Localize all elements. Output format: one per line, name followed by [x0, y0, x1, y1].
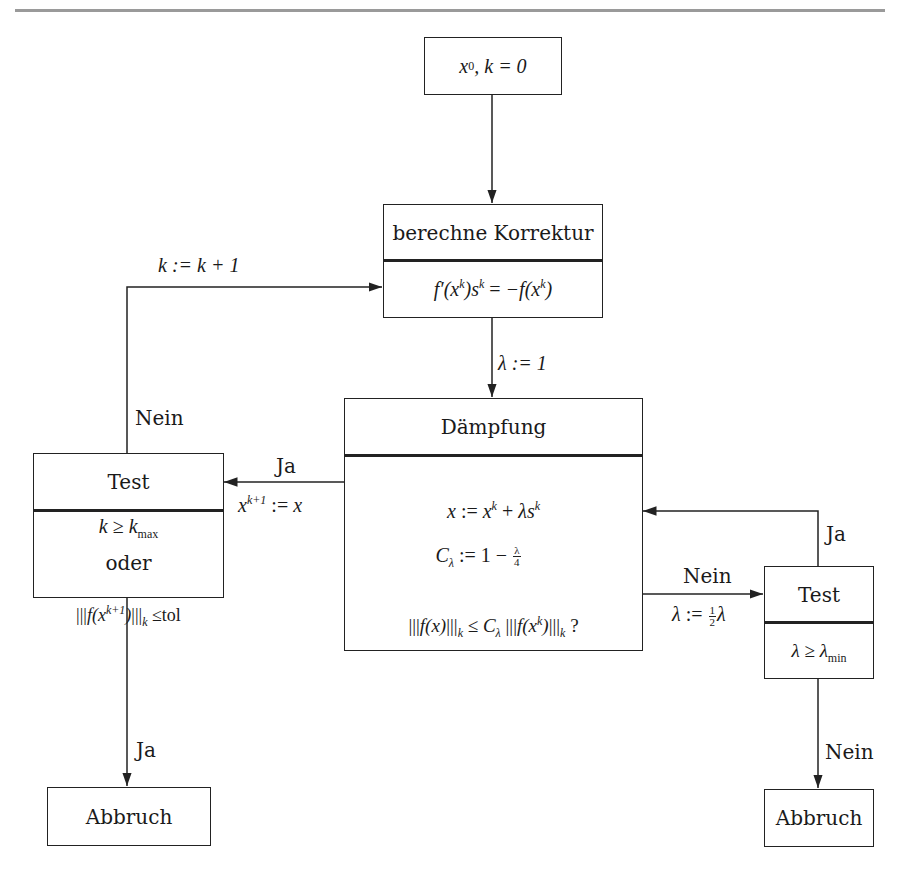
korrektur-node: berechne Korrektur f′(xk)sk = −f(xk) — [383, 204, 603, 318]
test-left-oder: oder — [34, 548, 223, 578]
abbruch-left-label: Abbruch — [48, 788, 210, 845]
daempfung-header: Dämpfung — [345, 399, 642, 455]
edge-label-nein-daempfung: Nein — [683, 564, 732, 588]
daempfung-c-lambda-equation: Cλ := 1 − λ4 — [315, 539, 642, 573]
start-node: x0, k = 0 — [424, 37, 562, 95]
edge-label-x-assign: xk+1 := x — [238, 494, 302, 517]
daempfung-divider — [345, 454, 642, 457]
edge-label-k-increment: k := k + 1 — [158, 254, 239, 277]
abbruch-left-node: Abbruch — [47, 787, 211, 846]
test-right-lambda-min-condition: λ ≥ λmin — [765, 624, 873, 678]
edge-label-ja-daempfung: Ja — [276, 454, 296, 478]
test-right-header: Test — [765, 567, 873, 622]
test-left-kmax-condition: k ≥ kmax — [34, 512, 223, 540]
abbruch-right-node: Abbruch — [764, 789, 874, 847]
test-left-node: Test k ≥ kmax oder |||f(xk+1)|||k ≤tol — [33, 453, 224, 598]
start-node-text: x0, k = 0 — [425, 38, 561, 94]
edge-test-right-to-daempfung — [643, 511, 818, 566]
test-left-header: Test — [34, 454, 223, 510]
edge-label-nein-abbruch: Nein — [825, 740, 874, 764]
edge-label-nein-left: Nein — [135, 406, 184, 430]
daempfung-descent-test: |||f(x)|||k ≤ Cλ |||f(xk)|||k ? — [345, 611, 642, 641]
daempfung-update-equation: x := xk + λsk — [345, 497, 642, 525]
korrektur-header: berechne Korrektur — [384, 205, 602, 260]
edge-label-ja-test-right: Ja — [826, 522, 846, 546]
edge-label-lambda-init: λ := 1 — [498, 352, 547, 375]
edge-label-lambda-half: λ := 12λ — [672, 603, 726, 628]
daempfung-node: Dämpfung x := xk + λsk Cλ := 1 − λ4 |||f… — [344, 398, 643, 651]
edge-label-ja-abbruch: Ja — [136, 738, 156, 762]
test-left-tolerance-condition: |||f(xk+1)|||k ≤tol — [34, 600, 223, 630]
abbruch-right-label: Abbruch — [765, 790, 873, 846]
test-right-node: Test λ ≥ λmin — [764, 566, 874, 679]
korrektur-equation: f′(xk)sk = −f(xk) — [384, 262, 602, 317]
